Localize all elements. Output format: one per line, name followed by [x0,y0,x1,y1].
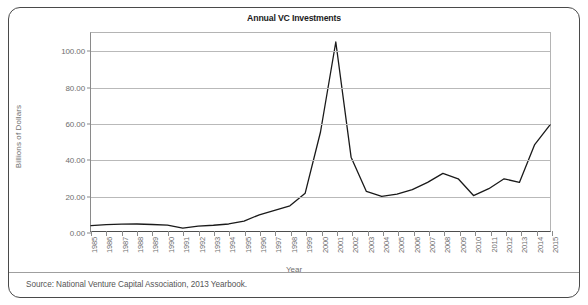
source-note: Source: National Venture Capital Associa… [26,280,247,289]
x-axis-tick-label: 1995 [243,237,252,253]
x-axis-tick-mark [168,231,169,236]
y-axis-tick-label: 0.00 [39,229,91,238]
gridline-y-20 [91,197,550,198]
gridline-y-40 [91,160,550,161]
x-axis-tick-label: 1994 [228,237,237,253]
x-axis-tick-mark [260,231,261,236]
x-axis-tick-label: 2014 [535,237,544,253]
x-axis-tick-mark [460,231,461,236]
x-axis-tick-mark [122,231,123,236]
x-axis-tick-label: 1998 [289,237,298,253]
x-axis-tick-mark [398,231,399,236]
x-axis-tick-label: 2008 [443,237,452,253]
gridline-y-80 [91,88,550,89]
x-axis-tick-label: 2007 [428,237,437,253]
y-axis-tick-label: 60.00 [39,119,91,128]
y-axis-tick-label: 40.00 [39,156,91,165]
x-axis-tick-mark [491,231,492,236]
x-axis-tick-label: 2000 [320,237,329,253]
x-axis-tick-mark [537,231,538,236]
x-axis-tick-mark [506,231,507,236]
x-axis-tick-mark [291,231,292,236]
x-axis-tick-mark [214,231,215,236]
x-axis-tick-label: 1987 [120,237,129,253]
x-axis-tick-mark [306,231,307,236]
x-axis-tick-label: 1993 [212,237,221,253]
x-axis-tick-mark [444,231,445,236]
x-axis-tick-mark [337,231,338,236]
x-axis-tick-label: 1985 [90,237,99,253]
y-axis-tick-label: 100.00 [39,47,91,56]
x-axis-tick-mark [245,231,246,236]
x-axis-tick-mark [137,231,138,236]
x-axis-tick-label: 2005 [397,237,406,253]
x-axis-tick-label: 2015 [551,237,560,253]
x-axis-tick-label: 2006 [412,237,421,253]
x-axis-tick-mark [414,231,415,236]
x-axis-tick-mark [552,231,553,236]
y-axis-tick-label: 20.00 [39,192,91,201]
y-axis-label: Billions of Dollars [14,105,23,168]
y-axis-tick-mark [87,196,91,197]
y-axis-tick-label: 80.00 [39,83,91,92]
x-axis-tick-label: 1989 [151,237,160,253]
y-axis-tick-mark [87,87,91,88]
x-axis-tick-label: 2012 [504,237,513,253]
x-axis-tick-mark [429,231,430,236]
x-axis-tick-label: 1992 [197,237,206,253]
x-axis-tick-label: 1999 [305,237,314,253]
x-axis-tick-label: 2013 [520,237,529,253]
x-axis-tick-mark [229,231,230,236]
page-title: Annual VC Investments [24,12,565,23]
y-axis-tick-mark [87,160,91,161]
x-axis-tick-label: 2011 [489,237,498,253]
x-axis-tick-mark [199,231,200,236]
plot-area: 0.0020.0040.0060.0080.00100.001985198619… [90,32,551,232]
x-axis-tick-label: 2003 [366,237,375,253]
line-series [91,33,550,231]
x-axis-tick-label: 2009 [458,237,467,253]
x-axis-tick-mark [322,231,323,236]
y-axis-tick-mark [87,51,91,52]
x-axis-tick-mark [352,231,353,236]
x-axis-tick-label: 2002 [351,237,360,253]
x-axis-tick-mark [475,231,476,236]
x-axis-tick-label: 2004 [381,237,390,253]
x-axis-tick-mark [275,231,276,236]
x-axis-tick-label: 1988 [136,237,145,253]
x-axis-tick-mark [383,231,384,236]
x-axis-tick-mark [91,231,92,236]
y-axis-tick-mark [87,123,91,124]
x-axis-tick-label: 1997 [274,237,283,253]
gridline-y-60 [91,124,550,125]
figure-panel: Annual VC Investments Billions of Dollar… [0,0,588,305]
x-axis-tick-label: 1986 [105,237,114,253]
x-axis-tick-label: 2010 [474,237,483,253]
x-axis-tick-label: 1990 [166,237,175,253]
x-axis-tick-mark [152,231,153,236]
x-axis-tick-label: 1991 [182,237,191,253]
x-axis-tick-mark [183,231,184,236]
x-axis-tick-mark [106,231,107,236]
gridline-y-100 [91,51,550,52]
x-axis-tick-label: 2001 [335,237,344,253]
x-axis-tick-mark [368,231,369,236]
x-axis-tick-label: 1996 [259,237,268,253]
x-axis-tick-mark [521,231,522,236]
divider [9,272,579,273]
